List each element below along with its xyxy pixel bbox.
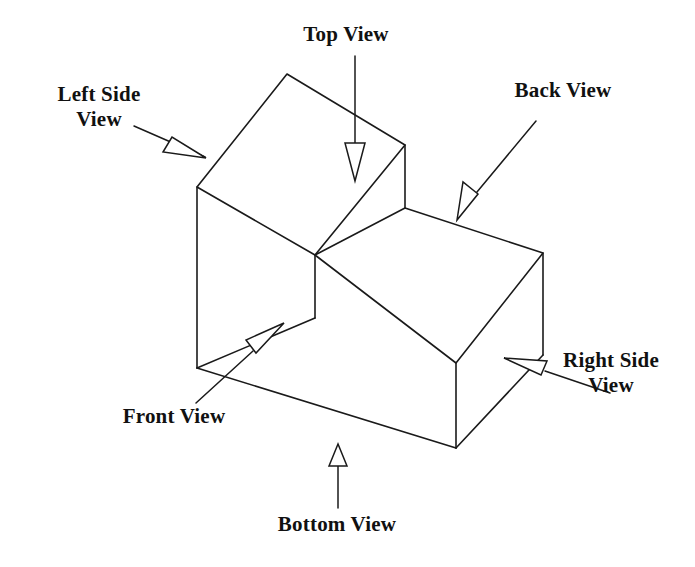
front-view-leader-line — [196, 351, 253, 403]
top-view-arrowhead — [345, 143, 365, 181]
isometric-view-diagram: Left Side View Top View Back View Right … — [0, 0, 695, 567]
top-face-tall-edge — [197, 74, 405, 255]
back-view-arrowhead — [457, 182, 478, 220]
bottom-view-arrow — [329, 444, 347, 508]
back-view-arrow — [457, 121, 536, 220]
label-right-side-view: Right Side View — [530, 348, 692, 398]
bottom-view-arrowhead — [329, 444, 347, 466]
label-top-view: Top View — [266, 22, 426, 47]
front-view-arrowhead — [246, 323, 284, 353]
back-view-leader-line — [472, 121, 536, 198]
step-ledge-top-face-edge — [315, 208, 543, 363]
label-back-view: Back View — [478, 78, 648, 103]
label-front-view: Front View — [84, 404, 264, 429]
stepped-block-solid — [197, 74, 543, 448]
left-side-view-arrowhead — [163, 137, 206, 158]
label-left-side-view: Left Side View — [24, 82, 174, 132]
label-bottom-view: Bottom View — [237, 512, 437, 537]
